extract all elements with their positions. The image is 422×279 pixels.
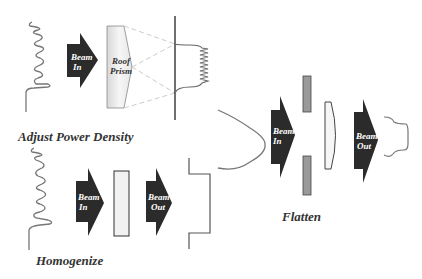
caption-adjust-power-density: Adjust Power Density: [17, 129, 134, 144]
beam-in-label-2-1: Beam: [77, 192, 100, 202]
noisy-input-profile-2: [29, 148, 52, 250]
aperture-bottom: [303, 156, 311, 195]
beam-out-label-3-1: Beam: [355, 131, 378, 141]
beam-out-label-3-2: Out: [357, 141, 372, 151]
panel-flatten: Beam In Beam Out Flatten: [218, 76, 408, 224]
beam-shaping-diagram: Beam In Roof Prism: [0, 0, 422, 279]
beam-in-label-2: In: [72, 62, 82, 72]
beam-in-label-3-1: Beam: [272, 126, 295, 136]
gaussian-input-profile: [218, 110, 265, 169]
beam-out-label-2-2: Out: [151, 202, 166, 212]
panel-adjust-power-density: Beam In Roof Prism: [17, 16, 208, 144]
beam-in-label-1: Beam: [70, 52, 93, 62]
panel-homogenize: Beam In Beam Out Homogenize: [29, 148, 210, 268]
beam-in-label-2-2: In: [78, 202, 88, 212]
flat-top-output-profile: [189, 158, 210, 249]
aperture-top: [303, 76, 311, 112]
homogenizer-plate: [114, 171, 129, 236]
caption-homogenize: Homogenize: [35, 253, 103, 268]
flattened-output-profile: [384, 117, 408, 156]
output-profile: [175, 44, 208, 93]
noisy-input-profile: [26, 22, 50, 112]
beam-out-label-2-1: Beam: [147, 192, 170, 202]
flattening-lens: [325, 102, 336, 169]
roof-prism-label-2: Prism: [110, 66, 132, 76]
beam-in-label-3-2: In: [272, 136, 282, 146]
roof-prism-label-1: Roof: [111, 56, 131, 66]
caption-flatten: Flatten: [281, 209, 321, 224]
